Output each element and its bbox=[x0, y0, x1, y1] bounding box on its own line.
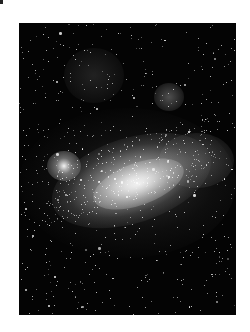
bright-nebula bbox=[47, 151, 81, 181]
corner-mark bbox=[0, 0, 3, 4]
star-cluster-top-right bbox=[154, 83, 184, 111]
star-cluster-top bbox=[64, 48, 124, 103]
galaxy-photo bbox=[19, 23, 236, 315]
